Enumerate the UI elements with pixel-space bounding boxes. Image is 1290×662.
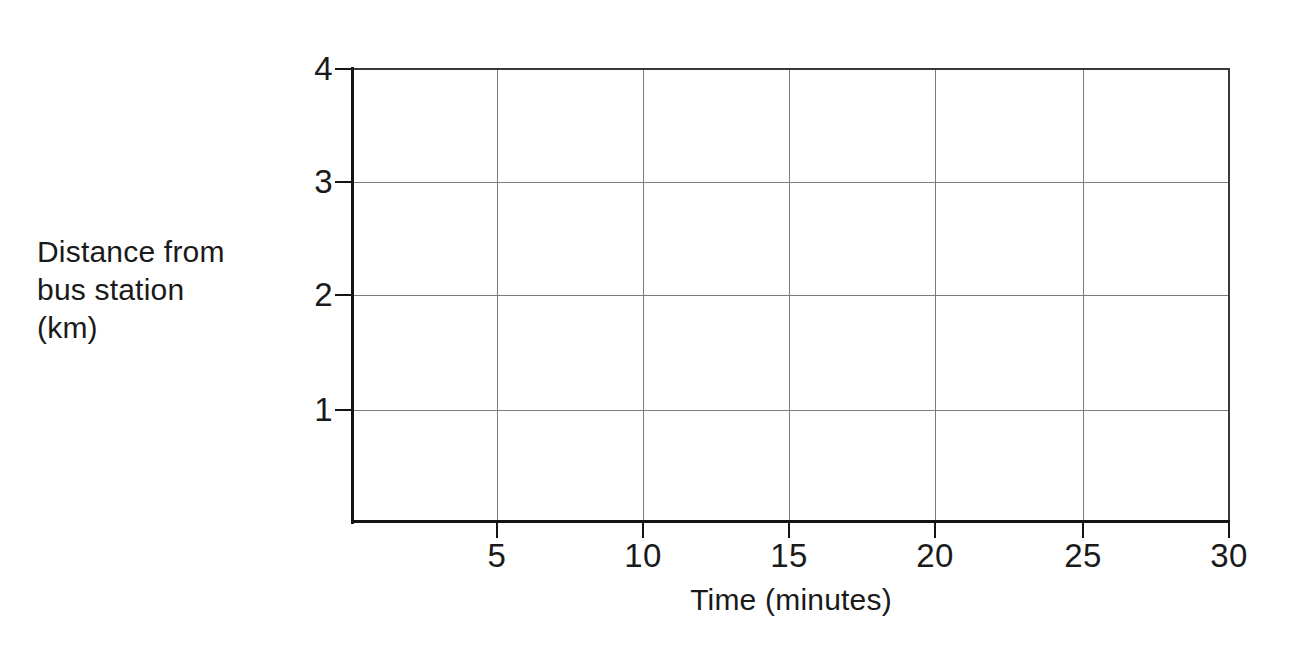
gridline-vertical-20 [935, 69, 936, 522]
y-axis-title-line-2: bus station [37, 271, 307, 309]
x-tick-mark-20 [934, 522, 936, 538]
x-tick-mark-10 [642, 522, 644, 538]
x-tick-label-20: 20 [890, 539, 980, 572]
y-tick-mark-3 [335, 181, 352, 183]
grid-top-edge [352, 68, 1230, 70]
y-tick-label-1: 1 [293, 393, 333, 426]
gridline-horizontal-1 [352, 410, 1229, 411]
y-tick-mark-2 [335, 294, 352, 296]
x-tick-label-30: 30 [1184, 539, 1274, 572]
y-tick-label-3: 3 [293, 165, 333, 198]
gridline-vertical-15 [789, 69, 790, 522]
gridline-vertical-25 [1083, 69, 1084, 522]
plot-area [352, 69, 1229, 522]
x-tick-label-5: 5 [452, 539, 542, 572]
gridline-vertical-10 [643, 69, 644, 522]
x-tick-mark-25 [1082, 522, 1084, 538]
y-tick-label-4: 4 [293, 52, 333, 85]
y-axis-title-line-1: Distance from [37, 233, 307, 271]
x-tick-mark-5 [496, 522, 498, 538]
gridline-vertical-5 [497, 69, 498, 522]
y-axis-title: Distance from bus station (km) [37, 233, 307, 347]
gridline-horizontal-3 [352, 182, 1229, 183]
chart-figure: 4 3 2 1 5 10 15 20 25 30 Distance from b… [0, 0, 1290, 662]
grid-right-edge [1228, 68, 1230, 523]
x-axis-title: Time (minutes) [451, 582, 1131, 618]
y-axis-title-line-3: (km) [37, 309, 307, 347]
x-tick-label-10: 10 [598, 539, 688, 572]
x-tick-label-15: 15 [744, 539, 834, 572]
x-axis-line [351, 520, 1230, 523]
x-tick-mark-30 [1228, 522, 1230, 538]
x-tick-mark-15 [788, 522, 790, 538]
y-tick-mark-4 [335, 68, 352, 70]
x-tick-label-25: 25 [1038, 539, 1128, 572]
y-tick-mark-1 [335, 409, 352, 411]
gridline-horizontal-2 [352, 295, 1229, 296]
